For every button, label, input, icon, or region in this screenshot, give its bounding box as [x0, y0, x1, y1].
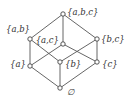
- node-c: [95, 60, 99, 64]
- edge-empty-a: [30, 66, 60, 88]
- node-empty: [58, 86, 62, 90]
- node-ab: [28, 37, 32, 41]
- hasse-diagram: {a,b,c}{a,b}{a,c}{b,c}{a}{b}{c}∅: [0, 0, 131, 98]
- node-bc: [95, 37, 99, 41]
- label-empty: ∅: [67, 87, 75, 97]
- label-ac: {a,c}: [36, 35, 59, 45]
- label-abc: {a,b,c}: [67, 7, 99, 17]
- node-abc: [61, 12, 65, 16]
- edges-group: [30, 14, 97, 88]
- node-a: [28, 64, 32, 68]
- labels-group: {a,b,c}{a,b}{a,c}{b,c}{a}{b}{c}∅: [6, 7, 125, 97]
- edge-bc-abc: [63, 14, 97, 39]
- nodes-group: [28, 12, 99, 90]
- label-a: {a}: [10, 59, 26, 69]
- label-bc: {b,c}: [101, 34, 125, 44]
- label-ab: {a,b}: [6, 24, 30, 34]
- label-c: {c}: [102, 59, 118, 69]
- node-ac: [61, 42, 65, 46]
- label-b: {b}: [65, 59, 81, 69]
- node-b: [58, 60, 62, 64]
